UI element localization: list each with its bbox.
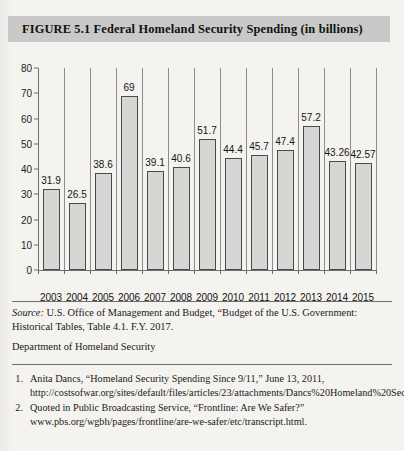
bar [355,163,372,270]
category-separator [220,68,221,270]
x-axis-tick-mark [116,270,117,274]
category-separator [272,68,273,270]
bar-value-label: 57.2 [301,112,320,123]
x-axis-tick-mark [350,270,351,274]
bar-value-label: 31.9 [41,175,60,186]
x-axis-tick-mark [246,270,247,274]
x-axis-tick-mark [194,270,195,274]
category-separator [376,68,377,270]
y-axis-tick-mark [34,143,38,144]
x-axis-tick-mark [272,270,273,274]
source-text: U.S. Office of Management and Budget, “B… [12,307,357,332]
y-axis-tick-mark [34,68,38,69]
category-separator [194,68,195,270]
bar-value-label: 38.6 [93,159,112,170]
bar [43,189,60,270]
divider-bottom [12,364,392,365]
category-separator [90,68,91,270]
x-axis-tick-mark [376,270,377,274]
bar-value-label: 47.4 [275,136,294,147]
footnote-number: 1. [12,372,30,399]
footnote-item: 1.Anita Dancs, “Homeland Security Spendi… [12,372,396,399]
category-separator [350,68,351,270]
category-separator [116,68,117,270]
category-separator [142,68,143,270]
y-axis-tick-mark [34,169,38,170]
x-axis-tick-mark [142,270,143,274]
x-axis-tick-mark [324,270,325,274]
figure-title-band: FIGURE 5.1 Federal Homeland Security Spe… [8,16,390,42]
source-label: Source: [12,307,44,318]
bar [121,96,138,270]
bar-value-label: 42.57 [350,149,375,160]
source-note: Source: U.S. Office of Management and Bu… [12,306,394,334]
x-axis-tick-mark [298,270,299,274]
bar [277,150,294,270]
bar [329,161,346,270]
bar [95,173,112,270]
y-axis-tick-mark [34,244,38,245]
x-axis-tick-mark [168,270,169,274]
bar [251,155,268,270]
y-axis-tick-mark [34,93,38,94]
bar-value-label: 40.6 [171,153,190,164]
plot-area: 0102030405060708031.9200326.5200438.6200… [38,68,376,270]
bar [173,167,190,270]
y-axis-tick-mark [34,219,38,220]
footnote-number: 2. [12,401,30,428]
footnote-list: 1.Anita Dancs, “Homeland Security Spendi… [12,372,396,430]
footnote-text: Quoted in Public Broadcasting Service, “… [30,401,396,428]
page-title: FIGURE 5.1 Federal Homeland Security Spe… [8,22,363,37]
figure-page: FIGURE 5.1 Federal Homeland Security Spe… [0,0,404,451]
divider-top [12,301,392,302]
bar [147,171,164,270]
y-axis-tick-mark [34,194,38,195]
bar-value-label: 45.7 [249,141,268,152]
category-separator [246,68,247,270]
bar-chart: 0102030405060708031.9200326.5200438.6200… [0,52,404,295]
bar-value-label: 26.5 [67,189,86,200]
bar-value-label: 43.26 [324,147,349,158]
footnote-item: 2.Quoted in Public Broadcasting Service,… [12,401,396,428]
bar-value-label: 51.7 [197,125,216,136]
source-department: Department of Homeland Security [12,340,155,354]
x-axis-line [38,270,377,271]
bar [225,158,242,270]
x-axis-tick-mark [90,270,91,274]
bar-value-label: 39.1 [145,157,164,168]
category-separator [298,68,299,270]
x-axis-tick-mark [220,270,221,274]
category-separator [324,68,325,270]
category-separator [64,68,65,270]
x-axis-tick-mark [38,270,39,274]
y-axis-tick-mark [34,118,38,119]
x-axis-tick-mark [64,270,65,274]
bar-value-label: 69 [123,82,134,93]
bar [69,203,86,270]
bar [303,126,320,270]
bar-value-label: 44.4 [223,144,242,155]
footnote-text: Anita Dancs, “Homeland Security Spending… [30,372,404,399]
bar [199,139,216,270]
category-separator [168,68,169,270]
